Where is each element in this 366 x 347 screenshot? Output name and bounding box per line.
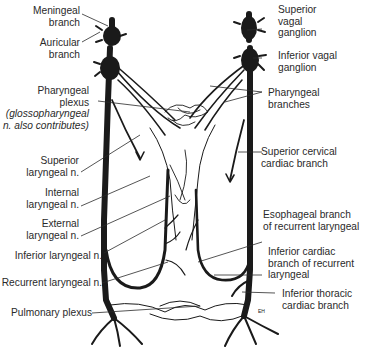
label-esophageal-branch: Esophageal branch of recurrent laryngeal [263, 209, 359, 232]
left-inferior-ganglion [100, 56, 120, 80]
label-pulmonary-plexus: Pulmonary plexus [11, 307, 92, 319]
vagus-nerve-diagram: EH Meningeal branch Auricular branch Pha… [0, 0, 366, 347]
label-meningeal-branch: Meningeal branch [33, 5, 80, 28]
label-internal-laryngeal: Internal laryngeal n. [26, 187, 79, 210]
label-inferior-thoracic-cardiac: Inferior thoracic cardiac branch [282, 288, 352, 311]
label-inferior-vagal-ganglion: Inferior vagal ganglion [278, 50, 337, 73]
left-superior-ganglion [103, 26, 121, 46]
label-superior-vagal-ganglion: Superior vagal ganglion [278, 4, 317, 39]
label-inferior-laryngeal: Inferior laryngeal n. [15, 250, 102, 262]
artist-signature: EH [258, 308, 265, 314]
label-superior-laryngeal: Superior laryngeal n. [26, 155, 79, 178]
right-recurrent-loop [196, 190, 250, 280]
right-inferior-ganglion [241, 48, 259, 72]
label-recurrent-laryngeal: Recurrent laryngeal n. [2, 277, 102, 289]
label-inferior-cardiac-branch: Inferior cardiac branch of recurrent lar… [268, 246, 354, 281]
label-external-laryngeal: External laryngeal n. [26, 218, 79, 241]
label-superior-cervical-cardiac: Superior cervical cardiac branch [261, 146, 337, 169]
right-superior-ganglion [241, 16, 257, 40]
label-pharyngeal-branches: Pharyngeal branches [268, 87, 320, 110]
label-auricular-branch: Auricular branch [40, 37, 80, 60]
label-pharyngeal-plexus: Pharyngeal plexus (glossopharyngeal n. a… [3, 85, 89, 131]
left-recurrent-loop [106, 170, 168, 288]
